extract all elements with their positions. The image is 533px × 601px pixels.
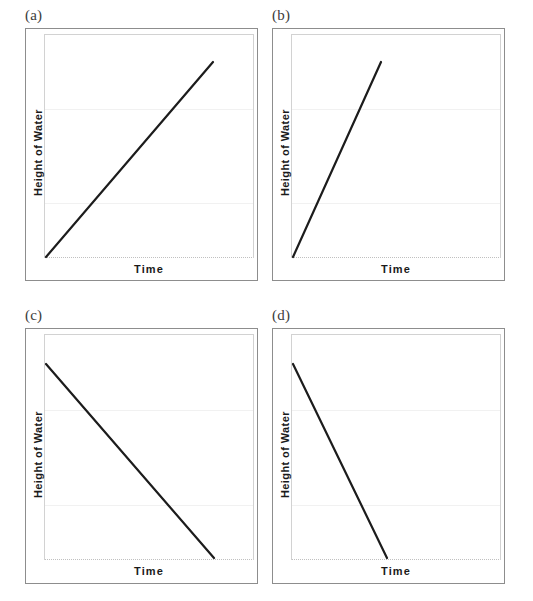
panel-d-xlabel: Time [291, 566, 501, 577]
panel-b-ylabel: Height of Water [280, 109, 291, 196]
panel-a-data-line [46, 62, 213, 257]
panel-a-ylabel: Height of Water [33, 109, 44, 196]
panel-c-data-line-svg [22, 308, 258, 592]
panel-d: (d) Height of Water Time [269, 308, 507, 592]
panel-a-data-line-svg [22, 8, 258, 284]
panel-a: (a) Height of Water Time [22, 8, 258, 284]
panel-b-data-line-svg [269, 8, 507, 284]
panel-a-xlabel: Time [44, 264, 254, 275]
panel-d-data-line [293, 364, 387, 558]
panel-b: (b) Height of Water Time [269, 8, 507, 284]
four-panel-figure: (a) Height of Water Time (b) Height of W… [0, 0, 533, 601]
panel-b-xlabel: Time [291, 264, 501, 275]
panel-c-xlabel: Time [44, 566, 254, 577]
panel-b-data-line [293, 62, 381, 257]
panel-c: (c) Height of Water Time [22, 308, 258, 592]
panel-c-ylabel: Height of Water [33, 411, 44, 498]
panel-d-data-line-svg [269, 308, 507, 592]
panel-c-data-line [46, 364, 214, 558]
panel-d-ylabel: Height of Water [280, 411, 291, 498]
